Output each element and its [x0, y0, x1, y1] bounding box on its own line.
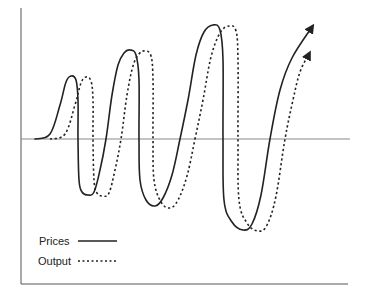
output-line: [50, 26, 309, 231]
prices-line: [35, 25, 312, 230]
legend-output-label: Output: [38, 255, 71, 267]
legend-prices-label: Prices: [39, 235, 70, 247]
